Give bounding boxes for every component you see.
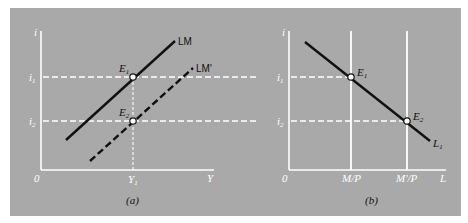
e2-point-a xyxy=(130,118,136,124)
panel-b-i1-label: i1 xyxy=(277,71,284,85)
panel-b-origin-label: 0 xyxy=(282,172,288,184)
lm-prime-curve xyxy=(90,68,193,161)
e2-label-a: E2 xyxy=(118,106,130,120)
e1-label-a: E1 xyxy=(118,62,129,76)
m-prime-over-p-label: M'/P xyxy=(395,172,418,184)
e1-point-a xyxy=(130,74,136,80)
panel-a-y-axis-label: i xyxy=(34,26,37,38)
panel-b-y-axis-label: i xyxy=(282,26,285,38)
e2-point-b xyxy=(404,118,410,124)
panel-b-caption: (b) xyxy=(365,194,378,207)
m-over-p-label: M/P xyxy=(341,172,361,184)
panel-a-caption: (a) xyxy=(126,194,139,207)
panel-a-origin-label: 0 xyxy=(34,172,40,184)
l1-demand-curve xyxy=(305,42,430,141)
panel-a-x-axis-label: Y xyxy=(207,172,215,184)
panel-a: i i1 i2 0 Y1 Y (a) LM LM' E1 E2 xyxy=(29,26,258,207)
lm-curve xyxy=(66,41,175,140)
y1-tick-label: Y1 xyxy=(128,173,138,187)
panel-b-i2-label: i2 xyxy=(277,115,284,129)
e1-label-b: E1 xyxy=(356,66,367,80)
lm-prime-curve-label: LM' xyxy=(196,63,212,74)
lm-curve-label: LM xyxy=(178,36,192,47)
e1-point-b xyxy=(348,74,354,80)
panel-a-i1-label: i1 xyxy=(29,71,36,85)
e2-label-b: E2 xyxy=(412,110,424,124)
panel-b: i i1 i2 0 M/P M'/P L (b) E1 E2 L1 xyxy=(277,26,446,207)
l1-curve-label: L1 xyxy=(432,137,443,151)
is-lm-money-market-figure: i i1 i2 0 Y1 Y (a) LM LM' E1 E2 i i1 i2 … xyxy=(0,0,468,223)
panel-b-x-axis-label: L xyxy=(439,172,446,184)
panel-a-i2-label: i2 xyxy=(29,115,36,129)
